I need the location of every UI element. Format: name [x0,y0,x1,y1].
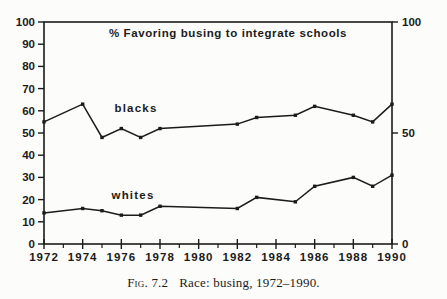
x-axis-tick-label: 1974 [68,251,98,263]
whites-data-point [120,213,123,216]
whites-data-point [100,209,103,212]
x-axis-tick-label: 1990 [377,251,407,263]
figure-number-label: Fig. 7.2 [127,275,168,290]
left-axis-tick-label: 60 [22,105,35,117]
x-axis-tick-label: 1978 [145,251,175,263]
blacks-data-point [236,122,239,125]
left-axis-tick-label: 50 [22,127,35,139]
whites-data-point [81,207,84,210]
figure-7-2: 0102030405060708090100050100197219741976… [0,0,447,291]
left-axis-tick-label: 0 [29,238,35,250]
whites-data-point [236,207,239,210]
whites-data-point [255,196,258,199]
left-axis-tick-label: 20 [22,194,35,206]
busing-line-chart: 0102030405060708090100050100197219741976… [0,0,447,268]
whites-data-point [139,213,142,216]
figure-caption: Fig. 7.2Race: busing, 1972–1990. [0,275,447,291]
whites-data-point [42,211,45,214]
left-axis-tick-label: 80 [22,60,35,72]
x-axis-tick-label: 1986 [300,251,330,263]
left-axis-tick-label: 10 [22,216,35,228]
left-axis-tick-label: 90 [22,38,35,50]
left-axis-tick-label: 40 [22,149,35,161]
whites-data-point [313,185,316,188]
whites-data-point [371,185,374,188]
blacks-data-point [158,127,161,130]
blacks-data-point [371,120,374,123]
left-axis-tick-label: 70 [22,83,35,95]
x-axis-tick-label: 1984 [261,251,291,263]
blacks-data-point [352,114,355,117]
x-axis-tick-label: 1982 [223,251,253,263]
x-axis-tick-label: 1980 [184,251,214,263]
right-axis-tick-label: 0 [402,238,408,250]
book-page: 0102030405060708090100050100197219741976… [0,0,447,299]
blacks-data-point [120,127,123,130]
blacks-line [44,104,392,137]
whites-data-point [158,205,161,208]
right-axis-tick-label: 50 [402,127,415,139]
right-axis-tick-label: 100 [402,16,421,28]
whites-series-label: whites [111,189,155,201]
figure-caption-text: Race: busing, 1972–1990. [179,275,320,290]
chart-title: % Favoring busing to integrate schools [109,27,347,39]
x-axis-tick-label: 1972 [29,251,59,263]
blacks-series-label: blacks [114,102,157,114]
left-axis-tick-label: 30 [22,171,35,183]
whites-data-point [294,200,297,203]
left-axis-tick-label: 100 [16,16,35,28]
blacks-data-point [294,114,297,117]
blacks-data-point [81,102,84,105]
whites-data-point [352,176,355,179]
whites-data-point [390,173,393,176]
blacks-data-point [100,136,103,139]
blacks-data-point [255,116,258,119]
blacks-data-point [390,102,393,105]
blacks-data-point [42,120,45,123]
whites-line [44,175,392,215]
blacks-data-point [313,105,316,108]
x-axis-tick-label: 1988 [339,251,369,263]
x-axis-tick-label: 1976 [107,251,137,263]
blacks-data-point [139,136,142,139]
